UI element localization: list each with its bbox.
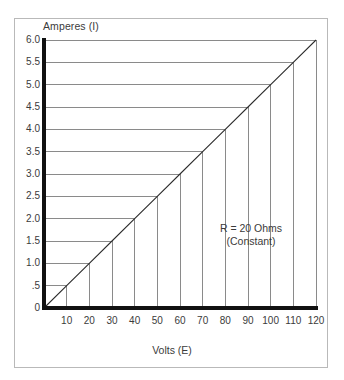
x-axis-tick-labels: 102030405060708090100110120 [44, 316, 316, 330]
y-tick-label: 3.0 [14, 169, 40, 179]
y-tick-label: 0 [14, 303, 40, 313]
resistance-annotation-line1: R = 20 Ohms [196, 222, 306, 235]
x-tick-label: 120 [301, 316, 331, 326]
y-axis-title: Amperes (I) [43, 20, 99, 32]
y-tick-label: 5.0 [14, 80, 40, 90]
y-tick-label: 2.5 [14, 191, 40, 201]
y-tick-label: 5.5 [14, 57, 40, 67]
y-tick-label: 4.0 [14, 124, 40, 134]
y-tick-label: 3.5 [14, 147, 40, 157]
y-tick-label: 1.0 [14, 258, 40, 268]
resistance-annotation-line2: (Constant) [196, 235, 306, 248]
y-tick-label: 6.0 [14, 35, 40, 45]
x-axis-title: Volts (E) [0, 344, 344, 356]
resistance-annotation: R = 20 Ohms (Constant) [196, 222, 306, 248]
y-axis-tick-labels: 6.05.55.04.54.03.53.02.52.01.51.0.50 [12, 40, 40, 308]
y-tick-label: 2.0 [14, 214, 40, 224]
y-tick-label: 4.5 [14, 102, 40, 112]
plot-area [44, 40, 316, 308]
y-tick-label: 1.5 [14, 236, 40, 246]
y-tick-label: .5 [14, 281, 40, 291]
chart-figure: Amperes (I) 6.05.55.04.54.03.53.02.52.01… [0, 0, 344, 380]
plot-svg [44, 40, 316, 308]
